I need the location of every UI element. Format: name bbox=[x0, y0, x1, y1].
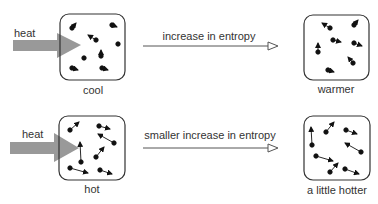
entropy-diagram: heat cool increase in entropy bbox=[0, 0, 378, 204]
process-label: smaller increase in entropy bbox=[144, 129, 276, 141]
heat-arrow-icon bbox=[10, 133, 79, 162]
final-state-label: a little hotter bbox=[307, 184, 367, 196]
row-cool-to-warmer: heat cool increase in entropy bbox=[13, 14, 369, 96]
process-arrow-icon bbox=[143, 144, 278, 152]
particles bbox=[310, 122, 363, 174]
initial-state-label: cool bbox=[83, 84, 103, 96]
hotter-box bbox=[304, 116, 370, 180]
warmer-box bbox=[304, 15, 369, 80]
process-arrow-icon bbox=[143, 42, 278, 50]
initial-state-label: hot bbox=[84, 183, 99, 195]
row-hot-to-hotter: heat hot smaller increase in entropy bbox=[10, 116, 370, 196]
final-state-label: warmer bbox=[317, 83, 355, 95]
particles bbox=[316, 20, 362, 72]
process-label: increase in entropy bbox=[163, 30, 256, 42]
heat-label: heat bbox=[14, 27, 35, 39]
heat-label: heat bbox=[22, 128, 43, 140]
